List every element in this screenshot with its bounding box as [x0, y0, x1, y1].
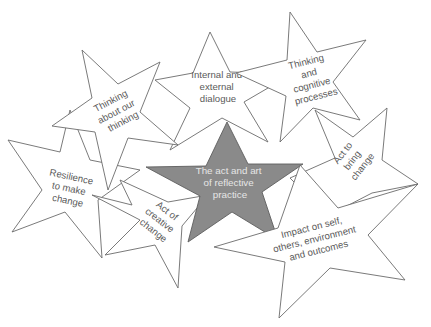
- label-line: Internal and: [191, 69, 242, 80]
- center-label-line: The act and art: [196, 165, 262, 176]
- center-label-line: of reflective: [204, 177, 255, 188]
- label-line: dialogue: [200, 93, 236, 104]
- label-line: external: [200, 81, 234, 92]
- reflective-practice-diagram: Resilience to make change Internal and e…: [0, 0, 431, 327]
- center-label-line: practice: [213, 189, 248, 200]
